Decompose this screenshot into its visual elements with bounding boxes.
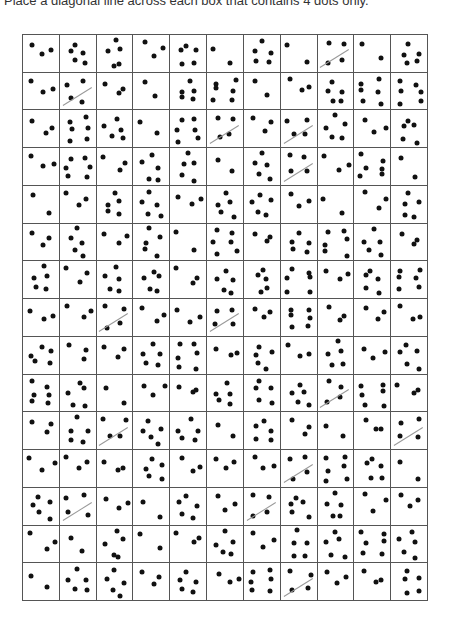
- dot-box[interactable]: [170, 299, 207, 337]
- dot-box[interactable]: [60, 261, 97, 299]
- dot-box[interactable]: [281, 110, 318, 148]
- dot-box[interactable]: [281, 73, 318, 111]
- dot-box[interactable]: [354, 375, 391, 413]
- dot-box[interactable]: [170, 261, 207, 299]
- dot-box[interactable]: [97, 526, 134, 564]
- dot-box[interactable]: [391, 563, 428, 601]
- dot-box[interactable]: [281, 488, 318, 526]
- dot-box[interactable]: [318, 299, 355, 337]
- dot-box[interactable]: [391, 488, 428, 526]
- dot-box[interactable]: [354, 148, 391, 186]
- dot-box[interactable]: [133, 73, 170, 111]
- dot-box[interactable]: [391, 299, 428, 337]
- dot-box[interactable]: [170, 148, 207, 186]
- dot-box[interactable]: [318, 73, 355, 111]
- dot-box[interactable]: [318, 412, 355, 450]
- dot-box[interactable]: [281, 299, 318, 337]
- dot-box[interactable]: [133, 261, 170, 299]
- dot-box[interactable]: [207, 186, 244, 224]
- dot-box[interactable]: [244, 450, 281, 488]
- dot-box[interactable]: [281, 526, 318, 564]
- dot-box[interactable]: [244, 337, 281, 375]
- dot-box[interactable]: [391, 73, 428, 111]
- dot-box[interactable]: [60, 375, 97, 413]
- dot-box[interactable]: [281, 563, 318, 601]
- dot-box[interactable]: [170, 412, 207, 450]
- dot-box[interactable]: [391, 526, 428, 564]
- dot-box[interactable]: [207, 337, 244, 375]
- dot-box[interactable]: [23, 412, 60, 450]
- dot-box[interactable]: [60, 450, 97, 488]
- dot-box[interactable]: [318, 563, 355, 601]
- dot-box[interactable]: [133, 299, 170, 337]
- dot-box[interactable]: [97, 412, 134, 450]
- dot-box[interactable]: [354, 299, 391, 337]
- dot-box[interactable]: [97, 186, 134, 224]
- dot-box[interactable]: [60, 412, 97, 450]
- dot-box[interactable]: [207, 488, 244, 526]
- dot-box[interactable]: [354, 337, 391, 375]
- dot-box[interactable]: [207, 110, 244, 148]
- dot-box[interactable]: [318, 224, 355, 262]
- dot-box[interactable]: [318, 526, 355, 564]
- dot-box[interactable]: [207, 450, 244, 488]
- dot-box[interactable]: [207, 261, 244, 299]
- dot-box[interactable]: [391, 186, 428, 224]
- dot-box[interactable]: [244, 563, 281, 601]
- dot-box[interactable]: [97, 148, 134, 186]
- dot-box[interactable]: [244, 73, 281, 111]
- dot-box[interactable]: [207, 73, 244, 111]
- dot-box[interactable]: [318, 375, 355, 413]
- dot-box[interactable]: [281, 261, 318, 299]
- dot-box[interactable]: [60, 563, 97, 601]
- dot-box[interactable]: [207, 375, 244, 413]
- dot-box[interactable]: [23, 450, 60, 488]
- dot-box[interactable]: [170, 73, 207, 111]
- dot-box[interactable]: [97, 337, 134, 375]
- dot-box[interactable]: [23, 110, 60, 148]
- dot-box[interactable]: [391, 450, 428, 488]
- dot-box[interactable]: [170, 337, 207, 375]
- dot-box[interactable]: [133, 337, 170, 375]
- dot-box[interactable]: [207, 412, 244, 450]
- dot-box[interactable]: [207, 35, 244, 73]
- dot-box[interactable]: [354, 224, 391, 262]
- dot-box[interactable]: [60, 526, 97, 564]
- dot-box[interactable]: [281, 186, 318, 224]
- dot-box[interactable]: [170, 450, 207, 488]
- dot-box[interactable]: [60, 73, 97, 111]
- dot-box[interactable]: [391, 337, 428, 375]
- dot-box[interactable]: [97, 35, 134, 73]
- dot-box[interactable]: [60, 337, 97, 375]
- dot-box[interactable]: [281, 337, 318, 375]
- dot-box[interactable]: [23, 337, 60, 375]
- dot-box[interactable]: [244, 375, 281, 413]
- dot-box[interactable]: [97, 261, 134, 299]
- dot-box[interactable]: [133, 186, 170, 224]
- dot-box[interactable]: [244, 412, 281, 450]
- dot-box[interactable]: [318, 337, 355, 375]
- dot-box[interactable]: [281, 450, 318, 488]
- dot-box[interactable]: [170, 526, 207, 564]
- dot-box[interactable]: [23, 261, 60, 299]
- dot-box[interactable]: [354, 186, 391, 224]
- dot-box[interactable]: [133, 563, 170, 601]
- dot-box[interactable]: [354, 488, 391, 526]
- dot-box[interactable]: [23, 488, 60, 526]
- dot-box[interactable]: [318, 148, 355, 186]
- dot-box[interactable]: [318, 186, 355, 224]
- dot-box[interactable]: [244, 186, 281, 224]
- dot-box[interactable]: [318, 261, 355, 299]
- dot-box[interactable]: [60, 488, 97, 526]
- dot-box[interactable]: [23, 299, 60, 337]
- dot-box[interactable]: [23, 148, 60, 186]
- dot-box[interactable]: [318, 488, 355, 526]
- dot-box[interactable]: [391, 412, 428, 450]
- dot-box[interactable]: [170, 563, 207, 601]
- dot-box[interactable]: [97, 224, 134, 262]
- dot-box[interactable]: [23, 73, 60, 111]
- dot-box[interactable]: [207, 224, 244, 262]
- dot-box[interactable]: [354, 526, 391, 564]
- dot-box[interactable]: [170, 224, 207, 262]
- dot-box[interactable]: [354, 412, 391, 450]
